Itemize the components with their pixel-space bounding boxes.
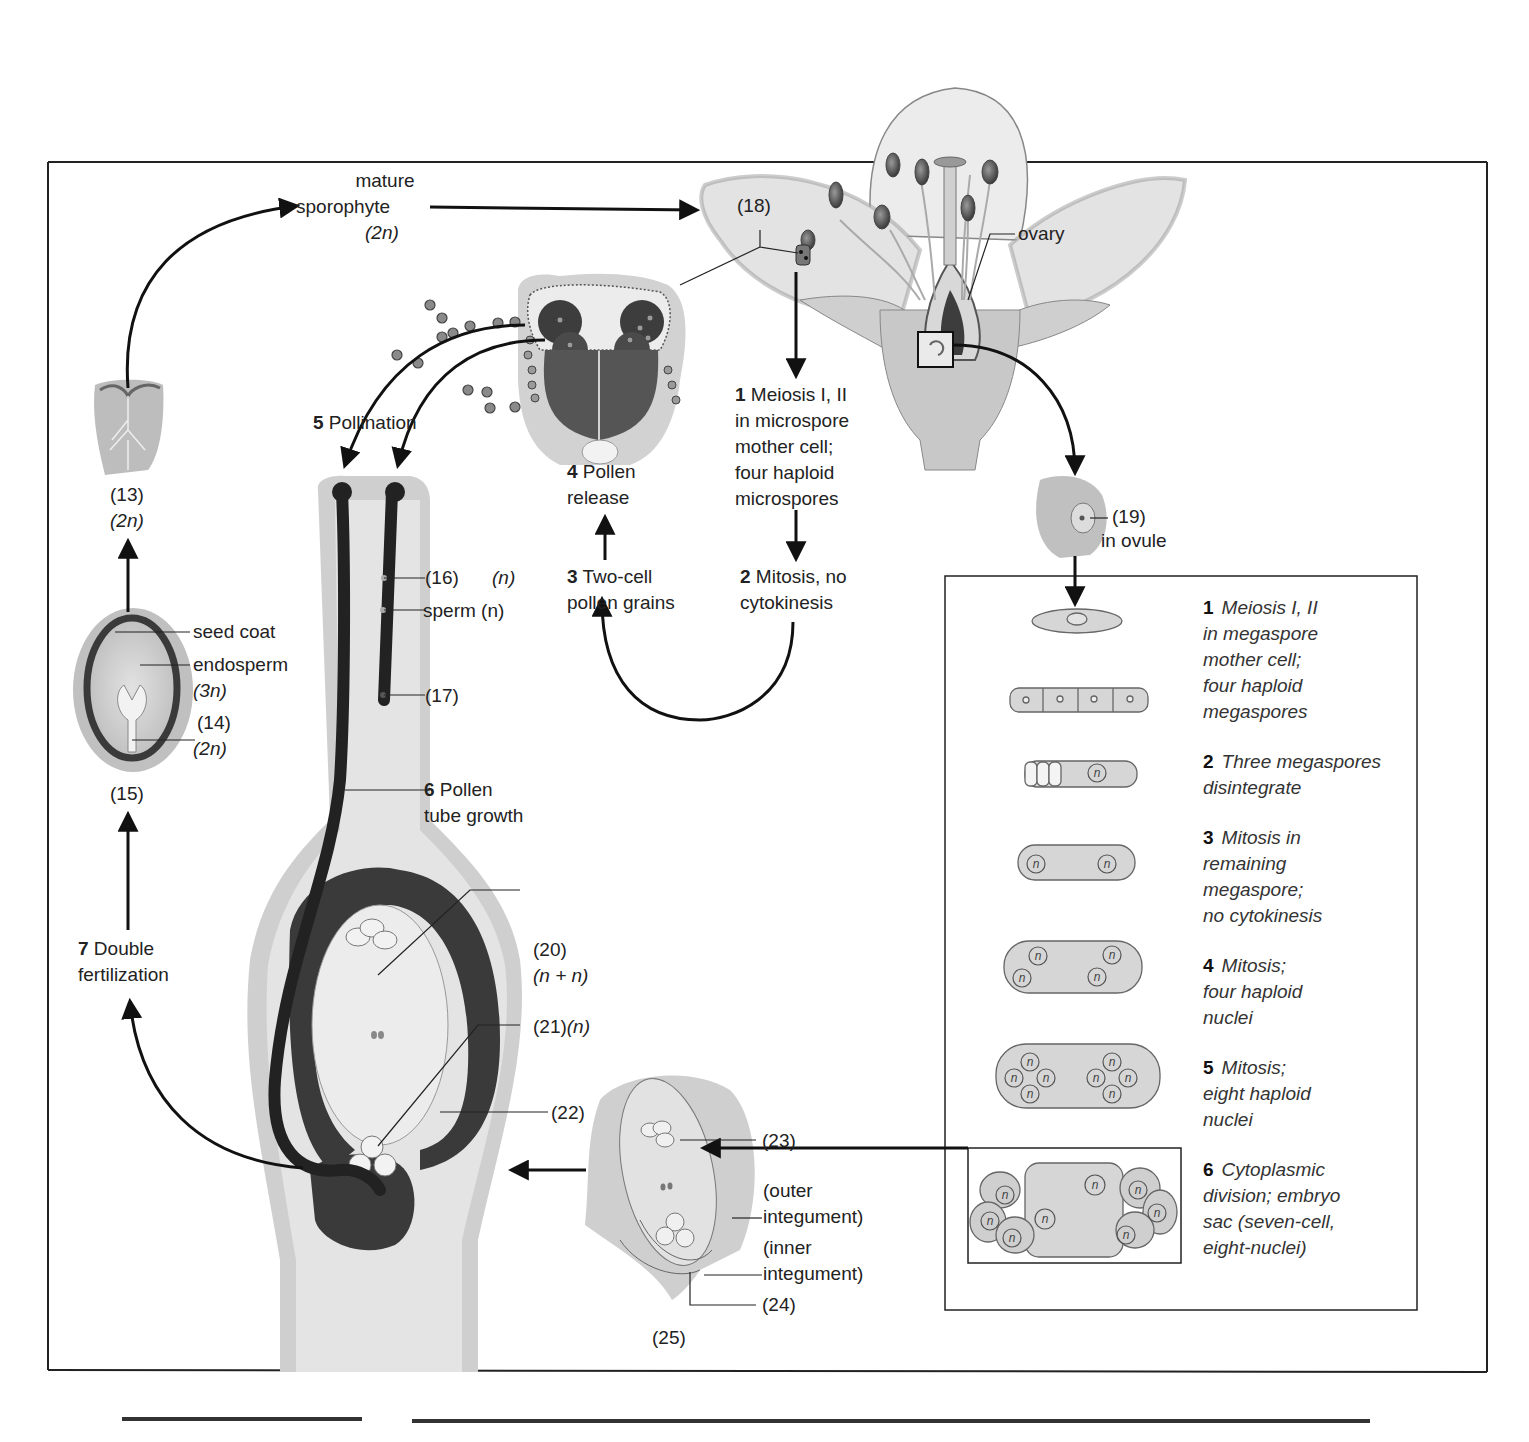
- ovule-25-illustration: [585, 1070, 755, 1300]
- micro-step-1-line: Meiosis I, II: [751, 384, 847, 405]
- mature-sporophyte-label: mature: [330, 168, 440, 194]
- step-number: 3: [1203, 827, 1214, 848]
- svg-text:n: n: [1009, 1231, 1016, 1245]
- step-line: Three megaspores: [1222, 751, 1381, 772]
- label-20: (20): [533, 937, 567, 963]
- micro-step-1-line: mother cell;: [735, 436, 833, 457]
- label-21-ploidy: (n): [567, 1016, 590, 1037]
- step-number: 5: [1203, 1057, 1214, 1078]
- step-line: in megaspore: [1203, 621, 1318, 647]
- svg-text:n: n: [1125, 1071, 1132, 1085]
- anther-cross-section: [518, 274, 686, 465]
- megaspore-step-4: 4Mitosis; four haploid nuclei: [1203, 953, 1302, 1031]
- step-line: Mitosis;: [1222, 1057, 1286, 1078]
- label-24: (24): [762, 1292, 796, 1318]
- step-line: division; embryo: [1203, 1183, 1340, 1209]
- label-16: (16): [425, 565, 459, 591]
- micro-step-1-line: in microspore: [735, 410, 849, 431]
- seed-coat-label: seed coat: [193, 619, 275, 645]
- step-line: megaspores: [1203, 699, 1318, 725]
- micro-step-4: 4 Pollen release: [567, 459, 636, 511]
- label-13: (13): [110, 482, 144, 508]
- micro-step-1-line: four haploid: [735, 462, 834, 483]
- label-23: (23): [762, 1128, 796, 1154]
- svg-text:n: n: [1154, 1206, 1161, 1220]
- outer-integument-line: integument): [763, 1206, 863, 1227]
- micro-step-2-num: 2: [740, 566, 751, 587]
- megaspore-step-5: 5Mitosis; eight haploid nuclei: [1203, 1055, 1311, 1133]
- step-5-pollination: 5 Pollination: [313, 410, 417, 436]
- step-7-line: Double: [94, 938, 154, 959]
- step-line: mother cell;: [1203, 647, 1318, 673]
- outer-integument-line: (outer: [763, 1180, 813, 1201]
- svg-text:n: n: [1092, 1178, 1099, 1192]
- label-19: (19): [1112, 504, 1146, 530]
- in-ovule-label: in ovule: [1101, 528, 1167, 554]
- megaspore-step-3: 3Mitosis in remaining megaspore; no cyto…: [1203, 825, 1322, 929]
- svg-text:n: n: [1109, 1087, 1116, 1101]
- svg-text:n: n: [1093, 1071, 1100, 1085]
- label-21-number: (21): [533, 1016, 567, 1037]
- step-6-num: 6: [424, 779, 435, 800]
- label-14-ploidy: (2n): [193, 736, 227, 762]
- svg-text:n: n: [1027, 1087, 1034, 1101]
- svg-text:n: n: [1123, 1228, 1130, 1242]
- step-line: nuclei: [1203, 1107, 1311, 1133]
- mature-sporophyte-line1: mature: [330, 168, 440, 194]
- micro-step-1-num: 1: [735, 384, 746, 405]
- endosperm-label: endosperm: [193, 652, 288, 678]
- seedling-illustration: [94, 380, 163, 475]
- inner-integument-label: (inner integument): [763, 1235, 863, 1287]
- step-line: four haploid: [1203, 979, 1302, 1005]
- svg-text:n: n: [1019, 971, 1026, 985]
- step-line: megaspore;: [1203, 877, 1322, 903]
- step-7-double-fertilization: 7 Double fertilization: [78, 936, 169, 988]
- micro-step-3: 3 Two-cell pollen grains: [567, 564, 675, 616]
- step-number: 4: [1203, 955, 1214, 976]
- step-line: no cytokinesis: [1203, 903, 1322, 929]
- step-6-line: tube growth: [424, 805, 523, 826]
- step-6-line: Pollen: [440, 779, 493, 800]
- step-line: remaining: [1203, 851, 1322, 877]
- micro-step-1: 1 Meiosis I, II in microspore mother cel…: [735, 382, 849, 512]
- step-line: nuclei: [1203, 1005, 1302, 1031]
- step-line: eight haploid: [1203, 1081, 1311, 1107]
- outer-integument-label: (outer integument): [763, 1178, 863, 1230]
- step-7-num: 7: [78, 938, 89, 959]
- mature-sporophyte-ploidy: (2n): [365, 220, 399, 246]
- ovary-label: ovary: [1018, 221, 1064, 247]
- micro-step-4-line: release: [567, 487, 629, 508]
- inner-integument-line: (inner: [763, 1237, 812, 1258]
- svg-text:n: n: [1109, 1055, 1116, 1069]
- label-13-ploidy: (2n): [110, 508, 144, 534]
- svg-text:n: n: [1043, 1071, 1050, 1085]
- step-7-line: fertilization: [78, 964, 169, 985]
- inner-integument-line: integument): [763, 1263, 863, 1284]
- micro-step-1-line: microspores: [735, 488, 838, 509]
- svg-text:n: n: [1094, 970, 1101, 984]
- svg-text:n: n: [1027, 1055, 1034, 1069]
- svg-text:n: n: [1135, 1183, 1142, 1197]
- step-number: 2: [1203, 751, 1214, 772]
- step-line: sac (seven-cell,: [1203, 1209, 1340, 1235]
- step-line: four haploid: [1203, 673, 1318, 699]
- step-line: Cytoplasmic: [1222, 1159, 1325, 1180]
- label-16-ploidy: (n): [492, 565, 515, 591]
- bottom-rules: [122, 1417, 1370, 1423]
- svg-text:n: n: [1042, 1212, 1049, 1226]
- mature-sporophyte-line2: sporophyte: [296, 194, 390, 220]
- step-line: disintegrate: [1203, 775, 1381, 801]
- micro-step-2-line: Mitosis, no: [756, 566, 847, 587]
- step-line: eight-nuclei): [1203, 1235, 1340, 1261]
- svg-text:n: n: [1033, 857, 1040, 871]
- label-15: (15): [110, 781, 144, 807]
- step-number: 6: [1203, 1159, 1214, 1180]
- megaspore-step-2: 2Three megaspores disintegrate: [1203, 749, 1381, 801]
- micro-step-4-num: 4: [567, 461, 578, 482]
- svg-text:n: n: [1109, 948, 1116, 962]
- svg-text:n: n: [987, 1214, 994, 1228]
- label-22: (22): [551, 1100, 585, 1126]
- label-17: (17): [425, 683, 459, 709]
- label-14: (14): [197, 710, 231, 736]
- label-25: (25): [652, 1325, 686, 1351]
